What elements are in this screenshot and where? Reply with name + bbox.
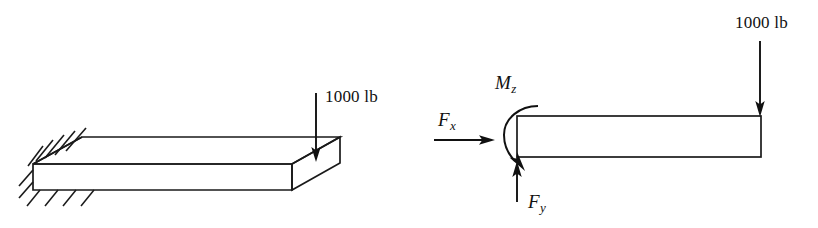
fixed-support-hatching-bottom	[19, 170, 94, 206]
figure-root: 1000 lb 1000 lb Fx Fy Mz	[0, 0, 818, 228]
figure-canvas	[0, 0, 818, 228]
fy-subscript: y	[540, 200, 546, 215]
slab-body	[33, 137, 340, 190]
right-diagram-group	[434, 41, 765, 202]
mz-arc-path	[504, 106, 538, 161]
beam-rectangle	[517, 116, 761, 157]
mz-subscript: z	[511, 81, 516, 96]
left-load-label: 1000 lb	[325, 88, 378, 105]
force-fx-arrow	[434, 135, 495, 144]
force-fy-arrow	[512, 161, 521, 202]
slab-top-face	[33, 137, 340, 164]
force-fx-label: Fx	[438, 110, 456, 132]
fx-subscript: x	[450, 118, 456, 133]
load-arrow-right	[755, 41, 764, 117]
slab-front-face	[33, 164, 292, 190]
left-diagram-group	[19, 93, 340, 206]
fy-symbol: F	[528, 191, 540, 212]
fixed-support-hatching-top	[28, 128, 86, 166]
moment-mz-label: Mz	[495, 73, 516, 95]
right-load-label: 1000 lb	[735, 14, 788, 31]
fx-symbol: F	[438, 109, 450, 130]
force-fy-label: Fy	[528, 192, 546, 214]
mz-symbol: M	[495, 72, 511, 93]
